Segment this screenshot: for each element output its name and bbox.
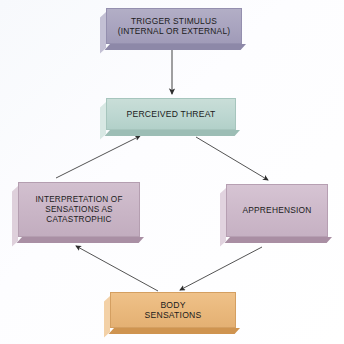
node-bevel-bottom <box>105 44 246 50</box>
node-bevel-left <box>12 186 18 246</box>
edge-interpretation-to-threat <box>56 136 140 178</box>
node-bevel-bottom <box>17 237 144 243</box>
node-bevel-left <box>100 12 106 53</box>
node-trigger-stimulus[interactable]: TRIGGER STIMULUS (INTERNAL OR EXTERNAL) <box>106 8 242 44</box>
node-face: INTERPRETATION OF SENSATIONS AS CATASTRO… <box>18 182 140 237</box>
node-label: INTERPRETATION OF SENSATIONS AS CATASTRO… <box>35 195 122 225</box>
node-bevel-bottom <box>109 328 240 334</box>
node-interpretation-of-sensations[interactable]: INTERPRETATION OF SENSATIONS AS CATASTRO… <box>18 182 140 237</box>
edge-apprehension-to-body <box>180 247 262 290</box>
diagram-canvas: TRIGGER STIMULUS (INTERNAL OR EXTERNAL) … <box>0 0 344 344</box>
node-body-sensations[interactable]: BODY SENSATIONS <box>110 292 236 328</box>
node-face: PERCEIVED THREAT <box>106 98 236 130</box>
edge-threat-to-apprehension <box>196 137 268 180</box>
edge-body-to-interpretation <box>76 246 158 291</box>
node-label: PERCEIVED THREAT <box>127 109 216 119</box>
node-bevel-left <box>220 188 226 246</box>
node-face: BODY SENSATIONS <box>110 292 236 328</box>
node-perceived-threat[interactable]: PERCEIVED THREAT <box>106 98 236 130</box>
node-face: TRIGGER STIMULUS (INTERNAL OR EXTERNAL) <box>106 8 242 44</box>
node-bevel-bottom <box>225 237 332 243</box>
node-bevel-left <box>104 296 110 337</box>
node-label: BODY SENSATIONS <box>145 300 202 321</box>
node-label: TRIGGER STIMULUS (INTERNAL OR EXTERNAL) <box>118 16 231 37</box>
node-face: APPREHENSION <box>226 184 328 237</box>
node-apprehension[interactable]: APPREHENSION <box>226 184 328 237</box>
node-label: APPREHENSION <box>243 205 312 215</box>
node-bevel-bottom <box>105 130 240 136</box>
